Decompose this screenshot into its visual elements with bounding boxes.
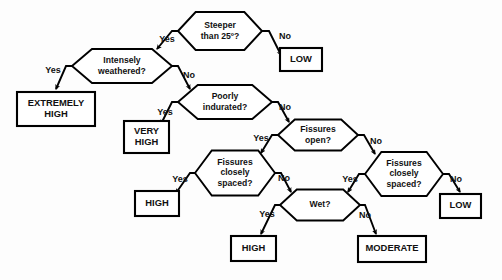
terminal-label-low-top: LOW	[290, 53, 312, 64]
terminal-label-very-high: VERYHIGH	[134, 125, 160, 148]
terminal-label-line: LOW	[450, 199, 472, 210]
terminal-label-moderate: MODERATE	[366, 242, 419, 253]
terminal-label-line: VERY	[134, 125, 160, 136]
decision-node-fissures-closely-left: Fissurescloselyspaced?	[195, 151, 275, 196]
decision-label-line: Poorly	[212, 91, 239, 101]
edge-label-indurated-no: No	[279, 102, 291, 112]
edge-label-fissures-right-no: No	[450, 174, 462, 184]
edge-label-weathered-no: No	[183, 70, 195, 80]
decision-node-weathered: Intenselyweathered?	[72, 49, 172, 83]
terminal-label-high-left: HIGH	[145, 197, 169, 208]
decision-label-line: open?	[305, 135, 331, 145]
terminal-label-line: HIGH	[135, 136, 159, 147]
terminal-node-extremely-high: EXTREMELYHIGH	[17, 92, 95, 126]
flowchart-canvas: Steeperthan 25º?Intenselyweathered?Poorl…	[0, 0, 502, 280]
terminal-label-line: HIGH	[44, 108, 68, 119]
decision-label-line: Fissures	[300, 124, 336, 134]
decision-label-line: closely	[389, 168, 418, 178]
terminal-node-low-top: LOW	[280, 48, 322, 71]
decision-label-line: than 25º?	[201, 31, 239, 41]
terminal-label-line: EXTREMELY	[28, 97, 85, 108]
decision-label-line: weathered?	[97, 66, 146, 76]
decision-label-fissures-closely-left: Fissurescloselyspaced?	[217, 157, 253, 188]
decision-label-line: Fissures	[217, 157, 253, 167]
decision-node-indurated: Poorlyindurated?	[178, 85, 272, 119]
decision-label-line: Steeper	[204, 20, 236, 30]
terminal-node-low-bottom: LOW	[440, 194, 481, 218]
decision-label-line: spaced?	[387, 179, 422, 189]
edge-label-fissures-open-no: No	[370, 136, 382, 146]
edge-label-fissures-open-yes: Yes	[253, 133, 269, 143]
decision-label-line: spaced?	[218, 178, 253, 188]
decision-label-line: closely	[220, 167, 249, 177]
edge-label-steeper-yes: Yes	[159, 34, 175, 44]
terminal-label-line: HIGH	[242, 242, 266, 253]
decision-label-line: Wet?	[310, 199, 331, 209]
nodes-layer: Steeperthan 25º?Intenselyweathered?Poorl…	[17, 12, 481, 262]
terminal-node-high-left: HIGH	[135, 191, 179, 216]
flowchart-diagram: Steeperthan 25º?Intenselyweathered?Poorl…	[0, 0, 502, 280]
edge-label-wet-yes: Yes	[259, 209, 275, 219]
decision-node-wet: Wet?	[280, 190, 360, 221]
terminal-node-moderate: MODERATE	[358, 236, 426, 262]
edge-label-weathered-yes: Yes	[45, 65, 61, 75]
decision-label-fissures-closely-right: Fissurescloselyspaced?	[386, 158, 422, 189]
edge-label-steeper-no: No	[279, 31, 291, 41]
terminal-node-high-bottom: HIGH	[231, 236, 276, 261]
decision-node-fissures-open: Fissuresopen?	[278, 120, 358, 151]
terminal-label-line: LOW	[290, 53, 312, 64]
edge-label-wet-no: No	[359, 210, 371, 220]
decision-label-weathered: Intenselyweathered?	[97, 55, 146, 76]
decision-node-fissures-closely-right: Fissurescloselyspaced?	[365, 152, 443, 196]
terminal-label-low-bottom: LOW	[450, 199, 472, 210]
terminal-node-very-high: VERYHIGH	[124, 121, 169, 153]
decision-label-line: indurated?	[203, 102, 247, 112]
edge-label-fissures-left-no: No	[278, 173, 290, 183]
terminal-label-line: HIGH	[145, 197, 169, 208]
decision-label-steeper: Steeperthan 25º?	[201, 20, 239, 41]
edge-label-indurated-yes: Yes	[157, 107, 173, 117]
terminal-label-line: MODERATE	[366, 242, 419, 253]
edge-label-fissures-right-yes: Yes	[342, 174, 358, 184]
terminal-label-high-bottom: HIGH	[242, 242, 266, 253]
decision-label-line: Fissures	[386, 158, 422, 168]
decision-label-wet: Wet?	[310, 199, 331, 209]
edge-label-fissures-left-yes: Yes	[172, 174, 188, 184]
decision-label-fissures-open: Fissuresopen?	[300, 124, 336, 145]
decision-label-line: Intensely	[103, 55, 140, 65]
decision-node-steeper: Steeperthan 25º?	[178, 12, 262, 50]
